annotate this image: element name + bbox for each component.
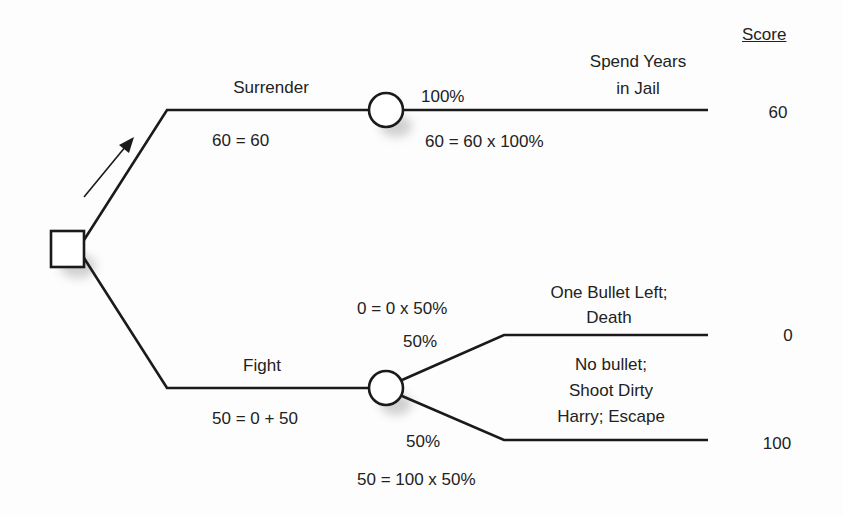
fight-chance-node-circle bbox=[369, 371, 403, 405]
decision-node-square bbox=[51, 231, 84, 267]
surrender-chance-node-circle bbox=[369, 93, 403, 127]
surrender-value-formula: 60 = 60 bbox=[212, 130, 269, 151]
escape-outcome-label-line3: Harry; Escape bbox=[557, 406, 665, 427]
jail-formula: 60 = 60 x 100% bbox=[425, 131, 544, 152]
jail-outcome-label-line1: Spend Years bbox=[590, 51, 686, 72]
death-formula: 0 = 0 x 50% bbox=[357, 298, 447, 319]
surrender-branch-label: Surrender bbox=[233, 77, 309, 98]
jail-probability: 100% bbox=[421, 86, 464, 107]
death-score: 0 bbox=[783, 325, 792, 346]
fight-branch-label: Fight bbox=[243, 355, 281, 376]
escape-score: 100 bbox=[763, 433, 791, 454]
fight-branch-line bbox=[84, 258, 369, 388]
escape-outcome-label-line1: No bullet; bbox=[575, 354, 647, 375]
escape-probability: 50% bbox=[406, 431, 440, 452]
fight-value-formula: 50 = 0 + 50 bbox=[212, 408, 298, 429]
escape-formula: 50 = 100 x 50% bbox=[357, 469, 476, 490]
direction-arrow-icon bbox=[84, 137, 134, 197]
death-outcome-label-line2: Death bbox=[586, 307, 631, 328]
decision-tree-diagram: Score Surrender 60 = 60 100% 60 = 60 x 1… bbox=[0, 0, 843, 517]
death-outcome-line bbox=[402, 335, 708, 380]
jail-outcome-label-line2: in Jail bbox=[616, 78, 659, 99]
escape-outcome-label-line2: Shoot Dirty bbox=[569, 380, 653, 401]
jail-score: 60 bbox=[769, 102, 788, 123]
death-outcome-label-line1: One Bullet Left; bbox=[550, 282, 667, 303]
score-column-header: Score bbox=[742, 24, 786, 45]
death-probability: 50% bbox=[403, 331, 437, 352]
